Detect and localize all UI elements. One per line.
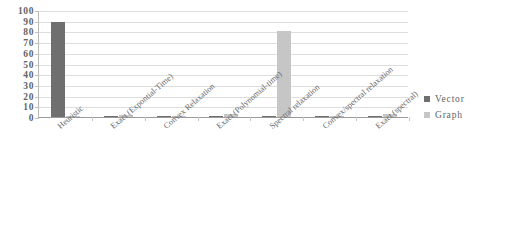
bar-vector: [315, 116, 329, 118]
y-axis-tick-label: 10: [23, 102, 34, 112]
y-axis-tick-label: 80: [23, 27, 34, 37]
y-axis-tick-label: 20: [23, 92, 34, 102]
y-axis-tick-label: 60: [23, 49, 34, 59]
legend-item[interactable]: Vector: [424, 92, 512, 106]
y-axis-tick-label: 50: [23, 60, 34, 70]
x-axis-labels: HeuristicExact (Expontial-Time)Convex Re…: [0, 118, 514, 225]
legend-label: Vector: [435, 94, 465, 104]
y-axis-tick-label: 70: [23, 38, 34, 48]
y-axis-tick-label: 100: [18, 6, 34, 16]
chart-legend: VectorGraph: [424, 92, 512, 124]
legend-swatch-icon: [424, 96, 430, 102]
legend-label: Graph: [435, 110, 463, 120]
y-axis-tick-label: 90: [23, 17, 34, 27]
y-axis-labels: 1009080706050403020100: [0, 11, 34, 118]
legend-swatch-icon: [424, 112, 430, 118]
bar-vector: [51, 22, 65, 117]
y-axis-tick-label: 30: [23, 81, 34, 91]
legend-item[interactable]: Graph: [424, 108, 512, 122]
bar-chart: 1009080706050403020100 HeuristicExact (E…: [0, 0, 514, 225]
bar-group: [39, 11, 92, 117]
y-axis-tick-label: 40: [23, 70, 34, 80]
bar-vector: [368, 116, 382, 118]
